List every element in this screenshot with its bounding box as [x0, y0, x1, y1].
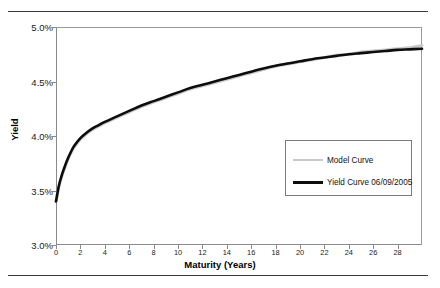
x-axis-tick-mark: [105, 245, 106, 249]
x-axis-tick-mark: [251, 245, 252, 249]
y-axis-tick-mark: [52, 82, 56, 83]
x-axis-tick-mark: [178, 245, 179, 249]
plot-top-border: [56, 27, 422, 28]
x-axis-tick-mark: [202, 245, 203, 249]
x-axis-tick-label: 22: [320, 248, 328, 257]
x-axis-title: Maturity (Years): [0, 259, 440, 270]
x-axis-tick-label: 4: [103, 248, 107, 257]
y-axis-tick-mark: [52, 136, 56, 137]
figure-container: 3.0%3.5%4.0%4.5%5.0% 0246810121416182022…: [0, 0, 440, 288]
plot-area-frame: [56, 27, 422, 245]
x-axis-tick-label: 20: [296, 248, 304, 257]
y-axis-tick-label: 5.0%: [5, 22, 53, 33]
y-axis-title: Yield: [9, 100, 20, 160]
plot-right-border: [421, 27, 422, 245]
x-axis-tick-label: 2: [78, 248, 82, 257]
x-axis-tick-mark: [324, 245, 325, 249]
y-axis-tick-mark: [52, 191, 56, 192]
y-axis-tick-label: 3.0%: [5, 240, 53, 251]
x-axis-tick-mark: [129, 245, 130, 249]
x-axis-tick-label: 24: [345, 248, 353, 257]
x-axis-tick-mark: [398, 245, 399, 249]
y-axis-tick-mark: [52, 27, 56, 28]
legend-swatch-model-curve: [293, 159, 323, 161]
x-axis-tick-mark: [56, 245, 57, 249]
x-axis-tick-mark: [349, 245, 350, 249]
y-axis-tick-label: 4.5%: [5, 76, 53, 87]
x-axis-tick-label: 12: [198, 248, 206, 257]
y-axis-tick-label: 3.5%: [5, 185, 53, 196]
x-axis-tick-label: 8: [152, 248, 156, 257]
x-axis-tick-label: 0: [54, 248, 58, 257]
bottom-horizontal-rule: [8, 275, 428, 276]
x-axis-tick-label: 14: [223, 248, 231, 257]
x-axis-tick-label: 16: [247, 248, 255, 257]
x-axis-tick-label: 10: [174, 248, 182, 257]
x-axis-tick-mark: [80, 245, 81, 249]
x-axis-tick-mark: [276, 245, 277, 249]
x-axis-tick-mark: [154, 245, 155, 249]
legend-swatch-yield-curve: [293, 181, 323, 184]
chart-legend: Model Curve Yield Curve 06/09/2005: [285, 140, 412, 196]
legend-label-model-curve: Model Curve: [327, 156, 373, 165]
x-axis-tick-label: 26: [369, 248, 377, 257]
x-axis-tick-mark: [227, 245, 228, 249]
x-axis-tick-label: 6: [127, 248, 131, 257]
x-axis-tick-label: 28: [393, 248, 401, 257]
legend-item-model-curve: Model Curve: [286, 153, 411, 167]
legend-label-yield-curve: Yield Curve 06/09/2005: [327, 178, 412, 187]
x-axis-tick-mark: [300, 245, 301, 249]
x-axis-tick-mark: [373, 245, 374, 249]
x-axis-tick-label: 18: [271, 248, 279, 257]
legend-item-yield-curve: Yield Curve 06/09/2005: [286, 175, 411, 189]
top-horizontal-rule: [8, 11, 428, 12]
